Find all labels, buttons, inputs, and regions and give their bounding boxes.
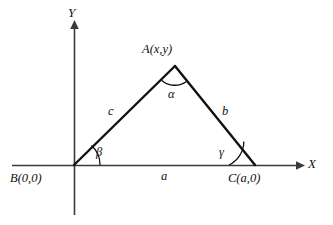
x-axis-arrowhead <box>296 161 305 170</box>
y-axis-label: Y <box>68 6 75 19</box>
angle-arc-gamma <box>229 142 244 166</box>
geometry-figure: X Y A(x,y) B(0,0) C(a,0) c b a α β γ <box>0 0 333 225</box>
angle-label-beta: β <box>96 146 102 159</box>
edge-side-c <box>74 66 175 165</box>
x-axis-label: X <box>308 157 316 170</box>
side-label-a: a <box>161 170 167 183</box>
x-axis <box>12 161 305 170</box>
y-axis <box>70 20 79 215</box>
side-label-b: b <box>222 105 228 118</box>
vertex-label-c: C(a,0) <box>228 172 260 185</box>
angle-label-gamma: γ <box>219 146 224 159</box>
vertex-label-b: B(0,0) <box>10 172 42 185</box>
vertex-label-a: A(x,y) <box>142 43 172 56</box>
angle-arc-alpha <box>162 80 187 85</box>
diagram-canvas <box>0 0 333 225</box>
y-axis-arrowhead <box>70 20 79 29</box>
side-label-c: c <box>108 105 114 118</box>
angle-label-alpha: α <box>168 88 175 101</box>
